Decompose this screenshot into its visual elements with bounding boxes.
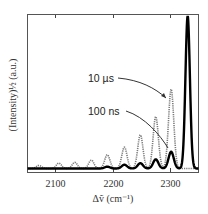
arrow-10us xyxy=(118,78,166,98)
y-axis-label: (Intensity)½ (a.u.) xyxy=(7,59,19,132)
arrow-100ns xyxy=(126,111,168,148)
plot-frame xyxy=(28,15,199,173)
annotation-100ns: 100 ns xyxy=(88,105,120,117)
x-tick-label-2200: 2200 xyxy=(104,178,124,189)
arrow-10us-head xyxy=(161,93,166,98)
x-ticks xyxy=(56,15,171,172)
annotation-10us: 10 µs xyxy=(88,72,114,84)
series-100ns-line xyxy=(28,16,199,169)
x-axis-label: Δṽ (cm⁻¹) xyxy=(93,193,134,205)
x-tick-label-2100: 2100 xyxy=(46,178,66,189)
x-tick-label-2300: 2300 xyxy=(161,178,181,189)
spectrum-chart: 10 µs 100 ns 2100 2200 2300 Δṽ (cm⁻¹) (I… xyxy=(0,0,208,214)
